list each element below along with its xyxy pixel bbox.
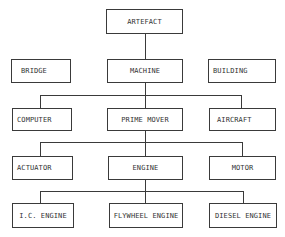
node-prime-mover: PRIME MOVER [107,108,183,131]
node-aircraft: AIRCRAFT [209,108,276,131]
node-label: I.C. ENGINE [19,212,66,220]
node-label: COMPUTER [17,116,52,124]
node-motor: MOTOR [209,156,276,180]
node-label: MOTOR [232,164,254,172]
edge-row3-bus [40,95,242,96]
edge-to-flywheel-engine [145,191,146,203]
node-engine: ENGINE [108,156,183,180]
edge-to-computer [40,95,41,108]
edge-artefact-machine [145,34,146,59]
node-artefact: ARTEFACT [106,9,183,34]
node-actuator: ACTUATOR [12,156,73,180]
node-label: ARTEFACT [127,18,162,26]
hierarchy-diagram: ARTEFACT BRIDGE MACHINE BUILDING COMPUTE… [0,0,285,237]
node-label: PRIME MOVER [121,116,168,124]
edge-to-prime-mover [145,95,146,108]
edge-to-engine [145,142,146,156]
node-flywheel-engine: FLYWHEEL ENGINE [109,203,183,228]
node-label: BRIDGE [21,67,47,75]
node-computer: COMPUTER [12,108,72,131]
node-label: AIRCRAFT [217,116,252,124]
node-label: MACHINE [130,67,160,75]
node-ic-engine: I.C. ENGINE [12,203,74,228]
edge-row4-bus [40,142,243,143]
edge-row5-bus [40,191,244,192]
node-label: BUILDING [213,67,248,75]
edge-to-actuator [40,142,41,156]
edge-to-diesel-engine [243,191,244,203]
edge-to-ic-engine [40,191,41,203]
node-bridge: BRIDGE [11,59,71,83]
edge-to-motor [242,142,243,156]
node-label: FLYWHEEL ENGINE [114,212,179,220]
node-machine: MACHINE [107,59,183,83]
node-building: BUILDING [208,59,276,83]
edge-to-aircraft [241,95,242,108]
node-diesel-engine: DIESEL ENGINE [209,203,277,228]
node-label: ACTUATOR [17,164,52,172]
node-label: ENGINE [133,164,159,172]
node-label: DIESEL ENGINE [215,212,271,220]
